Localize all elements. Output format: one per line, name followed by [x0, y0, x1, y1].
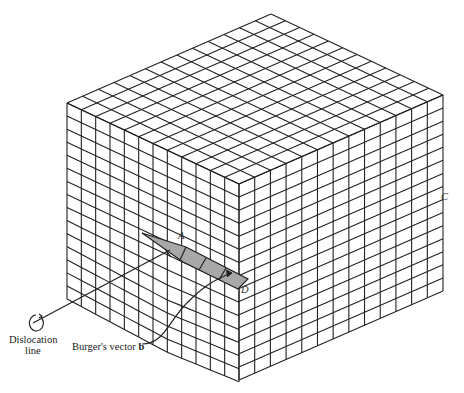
label-D: D — [241, 284, 249, 295]
dislocation-line-label-1: Dislocation — [9, 334, 57, 345]
crystal-lattice-diagram — [0, 0, 464, 393]
label-C: C — [441, 191, 448, 202]
burgers-vector-label: Burger's vector b — [72, 341, 144, 352]
dislocation-line-label-2: line — [25, 345, 41, 356]
label-A: A — [178, 230, 184, 241]
